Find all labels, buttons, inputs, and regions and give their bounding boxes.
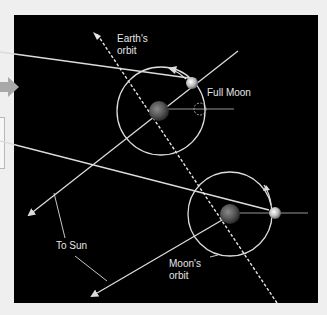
earth-icon-lower <box>220 204 240 224</box>
full-moon-label: Full Moon <box>207 87 251 99</box>
moons-orbit-label-line1: Moon's <box>169 258 201 270</box>
moons-orbit-label: Moon's orbit <box>169 258 201 282</box>
earths-orbit-label-line2: orbit <box>117 45 148 57</box>
moon-icon <box>186 77 198 89</box>
to-sun-leader-upper <box>54 193 65 238</box>
to-sun-ray-upper <box>29 51 238 215</box>
orbit-direction-arrow-icon <box>93 32 101 40</box>
earth-icon <box>149 101 169 121</box>
earths-orbit-label-line1: Earth's <box>117 33 148 45</box>
moons-orbit-leader <box>210 255 218 257</box>
arrow-right-icon <box>0 77 19 97</box>
moons-orbit-label-line2: orbit <box>169 270 201 282</box>
to-sun-leader-lower <box>75 256 107 281</box>
to-sun-ray-lower <box>92 216 229 296</box>
sightline-lower <box>0 141 269 210</box>
moon-icon-lower <box>269 207 281 219</box>
moon-phase-diagram <box>0 0 327 315</box>
to-sun-label: To Sun <box>56 240 87 252</box>
sightline-upper <box>0 52 196 79</box>
earths-orbit-label: Earth's orbit <box>117 33 148 57</box>
